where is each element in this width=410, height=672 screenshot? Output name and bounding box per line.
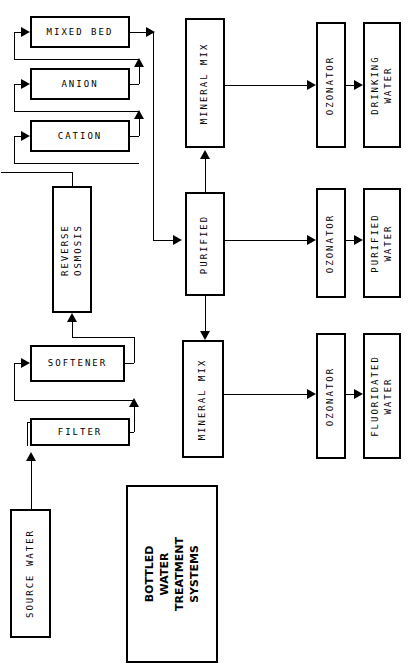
node-ozonator-mid: OZONATOR bbox=[316, 188, 346, 298]
connector-cation-out-arrow bbox=[134, 110, 144, 119]
node-fluoridated-water-label: FLUORIDATED WATER bbox=[369, 355, 395, 437]
node-filter: FILTER bbox=[30, 418, 130, 446]
node-ozonator-top-label: OZONATOR bbox=[325, 55, 338, 114]
connector-anion-in-arrow bbox=[21, 79, 30, 89]
connector-anion-out-arrow bbox=[134, 58, 144, 67]
connector-mixedbed-feed-h bbox=[14, 59, 139, 60]
connector-anion-feed-v bbox=[14, 84, 15, 111]
node-mineral-mix-top: MINERAL MIX bbox=[185, 18, 225, 148]
connector-cation-in-arrow bbox=[21, 131, 30, 141]
connector-mixedbed-in-arrow bbox=[21, 27, 30, 37]
connector-filter-out-arrow bbox=[129, 398, 139, 407]
connector-ro-top-h bbox=[1, 172, 72, 173]
connector-mineralmix-top-to-ozonator-h bbox=[225, 85, 309, 86]
connector-purified-water-in-arrow bbox=[354, 235, 363, 245]
connector-drinking-water-in-arrow bbox=[354, 80, 363, 90]
connector-softener-out-v2 bbox=[134, 337, 135, 363]
node-mineral-mix-bottom-label: MINERAL MIX bbox=[197, 358, 210, 440]
node-softener-label: SOFTENER bbox=[48, 357, 107, 370]
connector-softener-feed-h bbox=[14, 400, 134, 401]
node-mixed-bed: MIXED BED bbox=[30, 16, 130, 48]
connector-trunk-to-purified-h bbox=[153, 240, 175, 241]
connector-filter-left-stub-v bbox=[27, 422, 28, 446]
connector-fluoridated-water-in-arrow bbox=[354, 389, 363, 399]
connector-ozonator-mid-in-arrow bbox=[307, 235, 316, 245]
connector-mixedbed-feed-v bbox=[14, 32, 15, 59]
node-anion-label: ANION bbox=[61, 78, 98, 91]
connector-softener-in-arrow bbox=[21, 358, 30, 368]
connector-softener-out-h bbox=[125, 363, 134, 364]
connector-cation-feed-v bbox=[14, 136, 15, 163]
connector-softener-feed-v bbox=[14, 363, 15, 400]
node-fluoridated-water: FLUORIDATED WATER bbox=[363, 333, 401, 459]
node-purified-water: PURIFIED WATER bbox=[363, 188, 401, 298]
node-purified: PURIFIED bbox=[185, 192, 225, 296]
connector-anion-out-h bbox=[130, 84, 139, 85]
connector-mineralmix-top-in-arrow bbox=[200, 150, 210, 159]
node-mineral-mix-top-label: MINERAL MIX bbox=[199, 42, 212, 124]
connector-ro-in-arrow bbox=[67, 313, 77, 322]
node-mineral-mix-bottom: MINERAL MIX bbox=[182, 340, 224, 458]
node-mixed-bed-label: MIXED BED bbox=[47, 26, 114, 39]
connector-ro-in-h bbox=[72, 337, 134, 338]
node-ozonator-top: OZONATOR bbox=[316, 22, 346, 148]
connector-purified-in-arrow bbox=[173, 235, 182, 245]
connector-mineralmix-bottom-in-arrow bbox=[200, 331, 210, 340]
connector-cation-out-v bbox=[139, 116, 140, 136]
node-purified-label: PURIFIED bbox=[199, 214, 212, 273]
connector-source-arrow bbox=[26, 452, 36, 461]
connector-trunk-vertical bbox=[153, 32, 154, 240]
node-reverse-osmosis: REVERSE OSMOSIS bbox=[52, 186, 92, 313]
connector-mixedbed-arrow bbox=[146, 27, 155, 37]
connector-ozonator-bottom-in-arrow bbox=[307, 389, 316, 399]
connector-anion-out-v bbox=[139, 64, 140, 84]
flowchart-diagram: MIXED BED ANION CATION REVERSE OSMOSIS S… bbox=[0, 0, 410, 672]
node-source-water-label: SOURCE WATER bbox=[24, 529, 37, 618]
connector-anion-feed-h bbox=[14, 111, 139, 112]
connector-ro-in-v bbox=[72, 322, 73, 337]
connector-ro-top-v bbox=[72, 172, 73, 186]
connector-filter-out-v bbox=[134, 406, 135, 432]
connector-purified-up-v bbox=[205, 158, 206, 192]
node-cation: CATION bbox=[30, 120, 130, 152]
diagram-title-text: BOTTLED WATER TREATMENT SYSTEMS bbox=[142, 537, 202, 611]
connector-purified-to-ozonator-h bbox=[225, 240, 309, 241]
connector-source-to-filter-v bbox=[31, 460, 32, 512]
node-source-water: SOURCE WATER bbox=[10, 509, 51, 638]
node-cation-label: CATION bbox=[58, 130, 103, 143]
connector-cation-feed-h bbox=[14, 163, 139, 164]
connector-cation-out-h bbox=[130, 136, 139, 137]
node-anion: ANION bbox=[30, 68, 130, 100]
diagram-title-block: BOTTLED WATER TREATMENT SYSTEMS bbox=[126, 485, 218, 663]
node-drinking-water-label: DRINKING WATER bbox=[369, 55, 395, 114]
node-softener: SOFTENER bbox=[30, 345, 125, 382]
connector-filter-out-h bbox=[130, 432, 134, 433]
connector-ozonator-top-in-arrow bbox=[307, 80, 316, 90]
node-filter-label: FILTER bbox=[58, 426, 103, 439]
node-ozonator-mid-label: OZONATOR bbox=[325, 213, 338, 272]
node-drinking-water: DRINKING WATER bbox=[363, 22, 401, 148]
node-reverse-osmosis-label: REVERSE OSMOSIS bbox=[59, 224, 85, 276]
node-ozonator-bottom-label: OZONATOR bbox=[325, 366, 338, 425]
connector-mineralmix-bottom-to-ozonator-h bbox=[224, 394, 309, 395]
node-purified-water-label: PURIFIED WATER bbox=[369, 213, 395, 272]
connector-purified-down-v bbox=[205, 296, 206, 331]
node-ozonator-bottom: OZONATOR bbox=[316, 333, 346, 459]
